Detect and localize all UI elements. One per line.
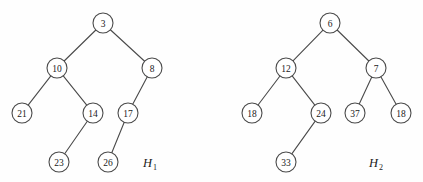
tree-name-subscript: 2 xyxy=(379,162,383,171)
tree-node[interactable]: 33 xyxy=(276,152,296,172)
nodes-layer: 3108211417232661271824371833 xyxy=(12,13,411,172)
tree-name-letter-glyph: H xyxy=(142,156,153,170)
node-value-label: 3 xyxy=(101,19,106,29)
tree-node[interactable]: 24 xyxy=(311,103,331,123)
tree-node[interactable]: 21 xyxy=(12,103,32,123)
node-value-label: 23 xyxy=(54,158,64,168)
edges-layer xyxy=(28,30,396,154)
tree-name-subscript: 1 xyxy=(153,162,157,171)
tree-node[interactable]: 3 xyxy=(93,13,113,33)
tree-name-letter-glyph: H xyxy=(368,156,379,170)
tree-node[interactable]: 8 xyxy=(142,58,162,78)
tree-node[interactable]: 14 xyxy=(83,103,103,123)
tree-edge xyxy=(292,121,315,154)
tree-edge xyxy=(292,76,315,105)
tree-diagram-canvas: 3108211417232661271824371833 H1H2 xyxy=(0,0,423,182)
node-value-label: 18 xyxy=(247,109,257,119)
tree-node[interactable]: 7 xyxy=(366,58,386,78)
tree-node[interactable]: 17 xyxy=(118,103,138,123)
tree-edge xyxy=(112,122,124,152)
tree-edge xyxy=(258,76,280,105)
node-value-label: 33 xyxy=(281,158,291,168)
tree-name-label: H1 xyxy=(142,156,157,171)
node-value-label: 10 xyxy=(52,64,62,74)
tree-edge xyxy=(337,30,369,61)
node-value-label: 8 xyxy=(150,64,155,74)
tree-edge xyxy=(293,30,323,61)
tree-node[interactable]: 6 xyxy=(320,13,340,33)
node-value-label: 14 xyxy=(88,109,98,119)
tree-name-label: H2 xyxy=(368,156,383,171)
node-value-label: 18 xyxy=(396,109,406,119)
tree-name-letter: H1 xyxy=(142,156,157,171)
tree-edge xyxy=(359,77,372,104)
node-value-label: 6 xyxy=(328,19,333,29)
binary-trees-figure: 3108211417232661271824371833 H1H2 xyxy=(0,0,423,182)
tree-edge xyxy=(63,76,87,105)
tree-edge xyxy=(28,76,51,105)
tree-name-letter: H2 xyxy=(368,156,383,171)
node-value-label: 24 xyxy=(316,109,326,119)
tree-node[interactable]: 10 xyxy=(47,58,67,78)
tree-labels-layer: H1H2 xyxy=(142,156,383,171)
tree-edge xyxy=(64,30,96,61)
node-value-label: 7 xyxy=(374,64,379,74)
tree-node[interactable]: 18 xyxy=(242,103,262,123)
tree-edge xyxy=(381,77,396,105)
tree-node[interactable]: 12 xyxy=(276,58,296,78)
node-value-label: 21 xyxy=(17,109,27,119)
tree-node[interactable]: 23 xyxy=(49,152,69,172)
node-value-label: 12 xyxy=(281,64,291,74)
node-value-label: 17 xyxy=(123,109,133,119)
node-value-label: 26 xyxy=(103,158,113,168)
tree-node[interactable]: 18 xyxy=(391,103,411,123)
node-value-label: 37 xyxy=(350,109,360,119)
tree-edge xyxy=(65,121,88,154)
tree-node[interactable]: 37 xyxy=(345,103,365,123)
tree-edge xyxy=(110,30,144,61)
tree-node[interactable]: 26 xyxy=(98,152,118,172)
tree-edge xyxy=(133,77,148,104)
